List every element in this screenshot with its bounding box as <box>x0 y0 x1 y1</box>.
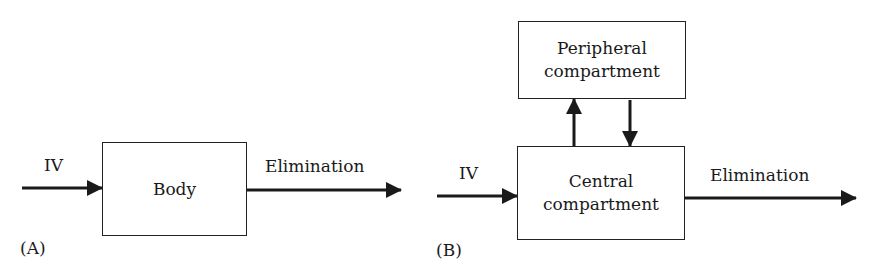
elimination-label-b: Elimination <box>710 165 809 185</box>
peripheral-compartment-box: Peripheral compartment <box>518 21 686 99</box>
peripheral-line1: Peripheral <box>557 37 647 60</box>
body-label: Body <box>153 178 196 201</box>
peripheral-line2: compartment <box>544 60 660 83</box>
central-compartment-box: Central compartment <box>517 146 685 240</box>
body-box: Body <box>102 142 247 236</box>
panel-a-label: (A) <box>20 238 46 258</box>
iv-label-b: IV <box>459 163 478 183</box>
elimination-label-a: Elimination <box>265 156 364 176</box>
central-line2: compartment <box>543 193 659 216</box>
panel-b-label: (B) <box>436 240 462 260</box>
central-line1: Central <box>569 170 634 193</box>
iv-label-a: IV <box>44 155 63 175</box>
